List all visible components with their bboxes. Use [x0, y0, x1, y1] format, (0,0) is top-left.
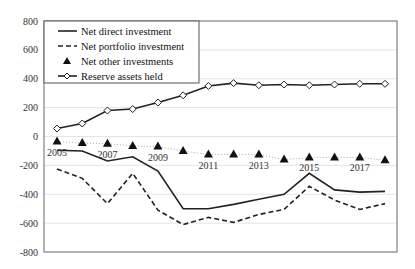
triangle-marker	[153, 142, 162, 150]
year-label: 2015	[299, 162, 319, 173]
legend-item-net-other-investments-label: Net other investments	[81, 56, 173, 67]
diamond-marker	[129, 106, 136, 113]
triangle-marker	[355, 152, 364, 160]
year-label: 2007	[97, 149, 117, 160]
y-tick-label: -600	[20, 218, 38, 229]
diamond-marker	[281, 81, 288, 88]
year-label: 2009	[148, 152, 168, 163]
y-tick-label: 400	[23, 73, 38, 84]
triangle-marker	[229, 150, 238, 158]
diamond-marker	[79, 120, 86, 127]
legend-item-net-portfolio-investment-label: Net portfolio investment	[81, 41, 184, 52]
y-tick-label: 600	[23, 44, 38, 55]
y-tick-label: 800	[23, 16, 38, 27]
diamond-marker	[154, 99, 161, 106]
diamond-marker	[255, 82, 262, 89]
y-tick-label: -200	[20, 160, 38, 171]
y-tick-label: -800	[20, 247, 38, 258]
diamond-marker	[230, 80, 237, 87]
diamond-marker	[180, 92, 187, 99]
triangle-marker	[204, 150, 213, 158]
year-label: 2017	[350, 162, 370, 173]
y-axis-ticks: 8006004002000-200-400-600-800	[20, 16, 38, 258]
triangle-marker	[78, 138, 87, 146]
year-label: 2011	[199, 160, 219, 171]
triangle-marker	[381, 155, 390, 163]
diamond-marker	[382, 80, 389, 87]
year-label: 2013	[249, 160, 269, 171]
diamond-marker	[331, 81, 338, 88]
year-label: 2005	[47, 147, 67, 158]
legend: Net direct investmentNet portfolio inves…	[44, 21, 199, 83]
legend-item-reserve-assets-held-label: Reserve assets held	[81, 71, 163, 82]
y-tick-label: 0	[33, 131, 38, 142]
triangle-marker	[305, 152, 314, 160]
y-tick-label: 200	[23, 102, 38, 113]
triangle-marker	[254, 150, 263, 158]
diamond-marker	[356, 80, 363, 87]
diamond-marker	[306, 82, 313, 89]
triangle-marker	[330, 152, 339, 160]
triangle-marker	[53, 137, 62, 145]
line-chart: 8006004002000-200-400-600-800 2005200720…	[0, 0, 415, 269]
diamond-marker	[205, 82, 212, 89]
triangle-marker	[128, 141, 137, 149]
legend-item-net-direct-investment-label: Net direct investment	[81, 26, 171, 37]
series-line-net-portfolio-investment	[57, 169, 385, 225]
y-tick-label: -400	[20, 189, 38, 200]
series-line-reserve-assets-held	[57, 83, 385, 128]
diamond-marker	[54, 125, 61, 132]
triangle-marker	[103, 139, 112, 147]
